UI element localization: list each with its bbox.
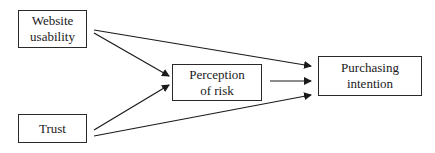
node-website-usability: Website usability xyxy=(18,10,87,48)
arrow-trust-to-purchasing-intention xyxy=(94,95,311,136)
node-label-line: Purchasing xyxy=(341,60,399,76)
node-purchasing-intention: Purchasing intention xyxy=(318,56,422,96)
arrow-website-usability-to-perception-of-risk xyxy=(94,33,169,76)
node-perception-of-risk: Perception of risk xyxy=(172,64,262,101)
node-label-line: Website xyxy=(30,13,75,29)
node-label-line: intention xyxy=(341,76,399,92)
node-label-line: usability xyxy=(30,29,75,45)
arrow-trust-to-perception-of-risk xyxy=(94,85,169,130)
arrow-website-usability-to-purchasing-intention xyxy=(94,30,311,66)
node-label-line: of risk xyxy=(189,83,245,99)
node-label-line: Perception xyxy=(189,67,245,83)
node-label-line: Trust xyxy=(39,121,66,137)
node-trust: Trust xyxy=(18,114,87,143)
